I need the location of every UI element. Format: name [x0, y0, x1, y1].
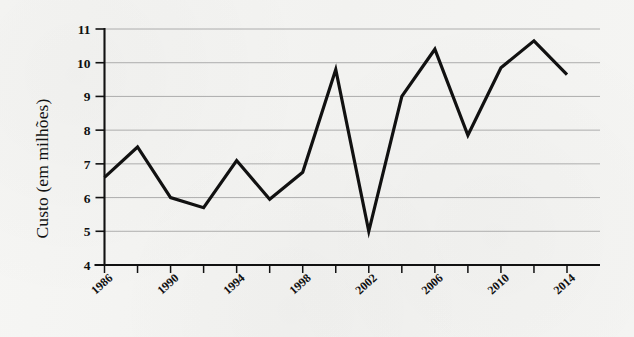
x-tick-label: 2014 [551, 271, 578, 297]
x-tick-labels: 19861990199419982002200620102014 [88, 271, 578, 297]
y-axis [96, 28, 105, 265]
x-tick-label: 2002 [353, 271, 380, 297]
x-tick-label: 2010 [485, 271, 512, 297]
x-tick-label: 1986 [88, 271, 115, 297]
y-tick-label: 7 [84, 157, 91, 172]
x-tick-label: 1998 [286, 271, 313, 297]
line-chart: Custo (em milhões) 4567891011 1986199019… [0, 0, 634, 337]
y-tick-label: 9 [84, 89, 91, 104]
y-tick-label: 8 [84, 123, 91, 138]
y-tick-label: 5 [84, 224, 91, 239]
y-tick-label: 6 [84, 191, 91, 206]
data-series [105, 41, 568, 231]
x-tick-label: 1994 [220, 271, 247, 297]
x-tick-label: 1990 [154, 271, 181, 297]
chart-canvas: 4567891011 19861990199419982002200620102… [0, 0, 634, 337]
y-tick-labels: 4567891011 [77, 22, 91, 273]
y-tick-label: 11 [78, 22, 91, 37]
y-tick-label: 10 [77, 56, 91, 71]
y-tick-label: 4 [84, 258, 91, 273]
x-tick-label: 2006 [419, 271, 446, 297]
